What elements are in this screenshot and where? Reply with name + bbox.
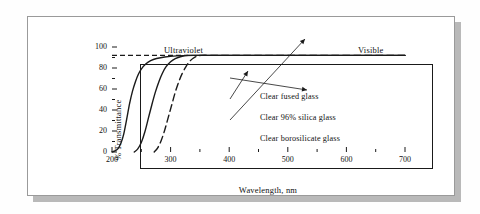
curve-clear-fused-glass [112,55,405,152]
y-tick-label: 20 [85,126,107,135]
chart-vector-layer [0,0,480,214]
y-tick-label: 100 [85,42,107,51]
y-tick-label: 60 [85,84,107,93]
x-tick-label: 600 [331,155,361,164]
curve-clear-borosilicate-glass [154,55,405,152]
data-curves [112,55,405,152]
screenshot-canvas: Ultraviolet Visible % Transmittance Wave… [0,0,480,214]
curve-clear-96-silica-glass [134,55,405,152]
leader-line-0 [230,78,307,90]
y-tick-label: 80 [85,63,107,72]
x-tick-label: 300 [156,155,186,164]
axis-ticks [112,47,405,152]
leader-arrowhead-0 [302,87,307,92]
x-tick-label: 400 [214,155,244,164]
x-tick-label: 700 [390,155,420,164]
annotation-leader-lines [230,39,307,120]
y-tick-label: 40 [85,105,107,114]
x-tick-label: 500 [273,155,303,164]
leader-arrowhead-1 [243,71,248,77]
x-tick-label: 200 [97,155,127,164]
